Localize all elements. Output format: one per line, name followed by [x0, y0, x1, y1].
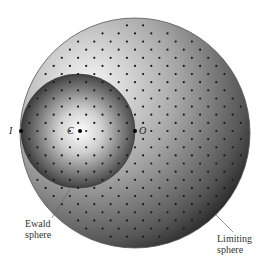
ewald-diagram: I C O Ewald sphere Limiting sphere — [0, 0, 271, 273]
label-o: O — [139, 125, 146, 136]
ewald-label-line2: sphere — [25, 229, 51, 240]
limiting-label-line1: Limiting — [217, 233, 252, 244]
ewald-sphere-label: Ewald sphere — [25, 218, 51, 240]
label-c: C — [67, 125, 74, 136]
point-i-marker — [19, 129, 23, 133]
point-o-marker — [133, 129, 137, 133]
limiting-label-line2: sphere — [217, 244, 252, 255]
label-i: I — [9, 125, 12, 136]
point-c-marker — [78, 129, 82, 133]
limiting-sphere-label: Limiting sphere — [217, 233, 252, 255]
ewald-label-line1: Ewald — [25, 218, 51, 229]
limiting-leader-line — [216, 215, 233, 232]
